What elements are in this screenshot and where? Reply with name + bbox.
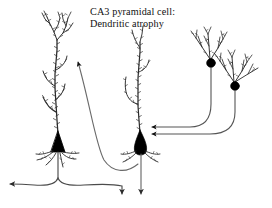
caption-line-2: Dendritic atrophy [90,18,200,30]
right-upper-granule-soma [207,59,216,68]
neuron-diagram-canvas [0,0,272,208]
caption-line-1: CA3 pyramidal cell: [90,6,200,18]
right-lower-granule-soma [231,82,240,91]
neuron-diagram-figure: CA3 pyramidal cell: Dendritic atrophy [0,0,272,208]
figure-caption: CA3 pyramidal cell: Dendritic atrophy [90,6,200,29]
